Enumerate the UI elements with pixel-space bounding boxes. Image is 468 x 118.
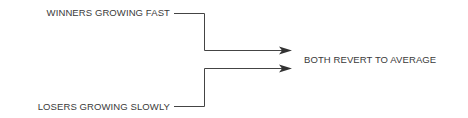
connector-diagram (0, 0, 468, 118)
connector-losers (174, 69, 283, 107)
connector-winners (174, 14, 283, 51)
